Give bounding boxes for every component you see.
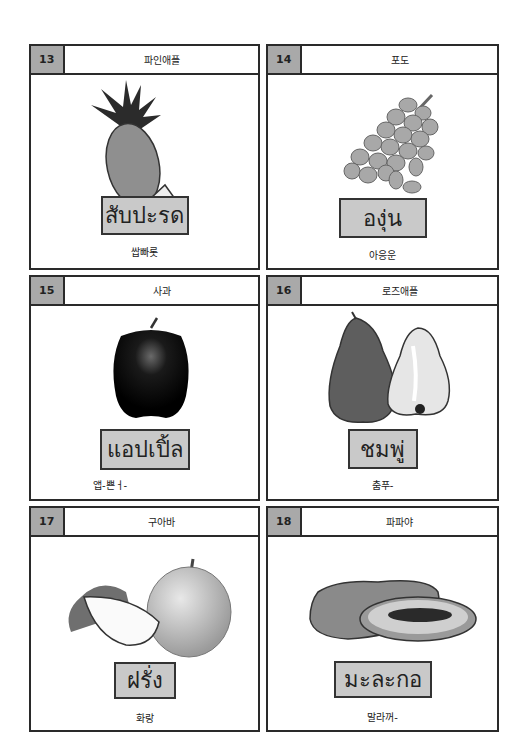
thai-word-label: ชมพู่	[348, 429, 418, 469]
card-header: 18 파파야	[268, 508, 497, 537]
card-header: 14 포도	[268, 46, 497, 75]
card-pineapple: 13 파인애플 สับปะรด 쌉빠롯	[29, 44, 260, 270]
korean-title: 구아바	[65, 508, 258, 535]
card-apple: 15 사과 แอปเปิ้ล 앱-쁜ㅓ-	[29, 275, 260, 501]
apple-illustration	[31, 306, 258, 426]
korean-title: 파인애플	[65, 46, 258, 73]
grapes-illustration	[268, 75, 497, 195]
pronunciation: 화랑	[31, 710, 258, 725]
thai-word-label: องุ่น	[339, 198, 427, 238]
pronunciation: 앱-쁜ㅓ-	[31, 477, 258, 492]
thai-word-label: มะละกอ	[334, 661, 432, 698]
korean-title: 사과	[65, 277, 258, 304]
card-header: 13 파인애플	[31, 46, 258, 75]
card-number: 13	[31, 46, 65, 73]
korean-title: 파파야	[302, 508, 497, 535]
guava-illustration	[31, 537, 258, 657]
card-number: 18	[268, 508, 302, 535]
pronunciation: 아응운	[268, 247, 497, 262]
card-number: 16	[268, 277, 302, 304]
korean-title: 로즈애플	[302, 277, 497, 304]
card-number: 17	[31, 508, 65, 535]
card-guava: 17 구아바 ฝรั่ง 화랑	[29, 506, 260, 732]
card-number: 15	[31, 277, 65, 304]
card-header: 17 구아바	[31, 508, 258, 537]
card-rose-apple: 16 로즈애플 ชมพู่ 춤푸-	[266, 275, 499, 501]
thai-word-label: สับปะรด	[101, 196, 189, 235]
pronunciation: 쌉빠롯	[31, 244, 258, 259]
pronunciation: 춤푸-	[268, 477, 497, 492]
thai-word-label: แอปเปิ้ล	[100, 429, 190, 470]
papaya-illustration	[268, 537, 497, 657]
card-number: 14	[268, 46, 302, 73]
card-header: 16 로즈애플	[268, 277, 497, 306]
pronunciation: 말라꺼-	[268, 709, 497, 724]
korean-title: 포도	[302, 46, 497, 73]
rose-apple-illustration	[268, 306, 497, 426]
card-header: 15 사과	[31, 277, 258, 306]
thai-word-label: ฝรั่ง	[114, 662, 176, 699]
pineapple-illustration	[31, 75, 258, 195]
card-papaya: 18 파파야 มะละกอ 말라꺼-	[266, 506, 499, 732]
card-grapes: 14 포도 องุ่น 아응운	[266, 44, 499, 270]
